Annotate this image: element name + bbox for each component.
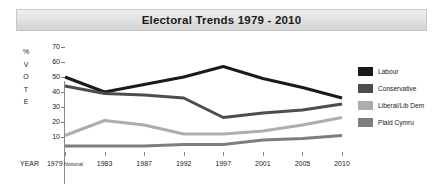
y-axis-caption-char-3: T [24, 84, 28, 97]
x-tick-label-1992: 1992 [176, 160, 192, 167]
y-tick-label-10: 10 [38, 133, 60, 140]
x-tick-label-1997: 1997 [215, 160, 231, 167]
x-tick-mark-1997 [223, 152, 224, 156]
x-tick-mark-1992 [184, 152, 185, 156]
legend-item-label: Plaid Cymru [378, 119, 414, 126]
x-tick-label-1987: 1987 [136, 160, 152, 167]
y-tick-mark-30 [61, 107, 65, 108]
y-axis-caption-char-1: V [24, 59, 29, 72]
x-tick-mark-1983 [105, 152, 106, 156]
chart-legend: LabourConservativeLiberal/Lib DemPlaid C… [358, 64, 440, 132]
legend-swatch-icon [358, 118, 373, 127]
legend-swatch-icon [358, 101, 373, 110]
x-tick-label-2005: 2005 [295, 160, 311, 167]
legend-item-label: Liberal/Lib Dem [378, 102, 424, 109]
legend-item-conservative[interactable]: Conservative [358, 81, 440, 95]
x-tick-label-2001: 2001 [255, 160, 271, 167]
series-line-liberal-lib-dem [65, 118, 342, 136]
x-axis-caption: YEAR [20, 160, 39, 167]
chart-page: Electoral Trends 1979 - 2010 %VOTE 70605… [0, 0, 443, 184]
y-axis-caption-char-4: E [24, 96, 29, 109]
x-tick-mark-2010 [342, 152, 343, 156]
chart-title-bar: Electoral Trends 1979 - 2010 [16, 9, 427, 31]
x-tick-label-2010: 2010 [334, 160, 350, 167]
legend-item-labour[interactable]: Labour [358, 64, 440, 78]
y-axis-caption-char-2: O [23, 71, 28, 84]
y-tick-label-40: 40 [38, 88, 60, 95]
x-tick-mark-2001 [263, 152, 264, 156]
y-tick-mark-40 [61, 92, 65, 93]
x-tick-mark-1979 [65, 152, 66, 156]
legend-item-plaid-cymru[interactable]: Plaid Cymru [358, 115, 440, 129]
y-tick-mark-20 [61, 122, 65, 123]
y-tick-mark-60 [61, 62, 65, 63]
x-tick-mark-1987 [144, 152, 145, 156]
y-tick-mark-50 [61, 77, 65, 78]
y-tick-label-30: 30 [38, 103, 60, 110]
y-tick-mark-10 [61, 137, 65, 138]
x-tick-mark-2005 [302, 152, 303, 156]
x-tick-label-1979: 1979 Notional [47, 160, 83, 167]
y-tick-label-20: 20 [38, 118, 60, 125]
y-tick-mark-70 [61, 47, 65, 48]
y-tick-label-50: 50 [38, 73, 60, 80]
x-tick-label-1983: 1983 [97, 160, 113, 167]
legend-item-label: Labour [378, 68, 399, 75]
legend-item-liberal-lib-dem[interactable]: Liberal/Lib Dem [358, 98, 440, 112]
series-line-plaid-cymru [65, 136, 342, 147]
legend-swatch-icon [358, 84, 373, 93]
legend-item-label: Conservative [378, 85, 416, 92]
y-tick-label-60: 60 [38, 58, 60, 65]
page-title: Electoral Trends 1979 - 2010 [142, 14, 302, 26]
y-axis-caption-char-0: % [23, 46, 29, 59]
y-tick-label-70: 70 [38, 43, 60, 50]
x-tick-note-1979: Notional [63, 161, 83, 167]
legend-swatch-icon [358, 67, 373, 76]
y-axis-caption: %VOTE [20, 46, 32, 109]
